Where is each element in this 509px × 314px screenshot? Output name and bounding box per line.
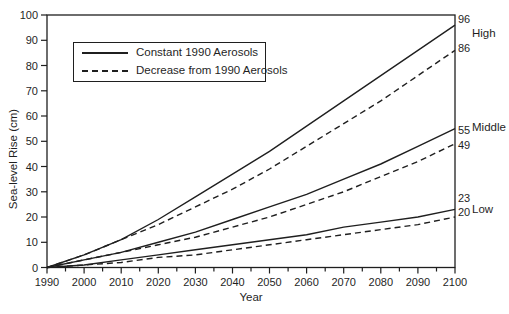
x-tick-label: 2000 [72,276,96,288]
y-tick-label: 40 [26,161,38,173]
scenario-label-high: High [472,27,496,39]
scenario-label-low: Low [472,203,494,215]
x-tick-label: 2040 [220,276,244,288]
y-tick-label: 70 [26,85,38,97]
y-tick-label: 50 [26,135,38,147]
y-tick-label: 100 [20,9,38,21]
y-tick-label: 10 [26,236,38,248]
legend-label-constant: Constant 1990 Aerosols [136,47,258,59]
x-tick-label: 2050 [257,276,281,288]
series-end-value-middle-decrease: 49 [458,139,470,151]
scenario-label-middle: Middle [472,121,506,133]
y-tick-label: 20 [26,211,38,223]
series-line-low-constant [47,209,455,267]
y-tick-label: 90 [26,34,38,46]
y-tick-label: 0 [32,262,38,274]
x-tick-label: 2020 [146,276,170,288]
series-line-high-decrease [47,50,455,267]
x-tick-label: 2100 [443,276,467,288]
y-tick-label: 80 [26,60,38,72]
x-tick-label: 2070 [331,276,355,288]
series-end-value-high-constant: 96 [458,13,470,25]
legend-label-decrease: Decrease from 1990 Aerosols [136,65,288,77]
x-tick-label: 2030 [183,276,207,288]
x-tick-label: 2060 [294,276,318,288]
x-tick-label: 1990 [35,276,59,288]
x-tick-label: 2010 [109,276,133,288]
y-axis-title: Sea-level Rise (cm) [7,109,19,209]
legend-entry-constant-aerosols: Constant 1990 Aerosols [82,47,265,60]
legend-entry-decrease-aerosols: Decrease from 1990 Aerosols [82,65,265,78]
y-tick-label: 30 [26,186,38,198]
series-end-value-high-decrease: 86 [458,42,470,54]
x-tick-label: 2090 [406,276,430,288]
y-tick-label: 60 [26,110,38,122]
x-axis-title: Year [239,291,262,303]
series-end-value-middle-constant: 55 [458,124,470,136]
sea-level-rise-figure: 1990200020102020203020402050206020702080… [0,0,509,314]
dashed-line-sample-icon [82,70,128,72]
series-end-value-low-constant: 23 [458,192,470,204]
series-end-value-low-decrease: 20 [458,206,470,218]
x-tick-label: 2080 [369,276,393,288]
solid-line-sample-icon [82,52,128,54]
legend: Constant 1990 Aerosols Decrease from 199… [73,42,266,82]
